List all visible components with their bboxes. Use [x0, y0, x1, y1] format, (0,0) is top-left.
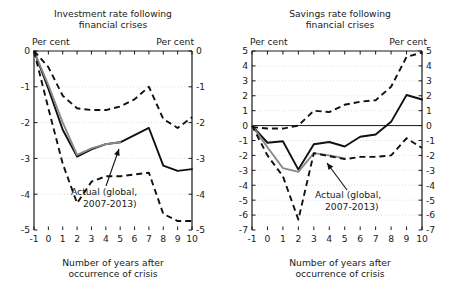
series-actual-global-2007-2013	[252, 126, 345, 172]
xaxis-label-line1: Number of years after	[62, 257, 164, 268]
ytick-label-left: -4	[21, 189, 30, 200]
ytick-label-left: 0	[242, 120, 248, 131]
xaxis-label-line1: Number of years after	[289, 257, 391, 268]
ytick-label-right: -1	[426, 135, 435, 146]
annotation-line1: Actual (global,	[71, 186, 137, 197]
ytick-label-right: -6	[426, 209, 435, 220]
xtick-label: 7	[146, 233, 152, 244]
chart-title-line2: financial crises	[306, 19, 375, 30]
chart-title-line1: Investment rate following	[54, 8, 172, 19]
ytick-label-right: -3	[196, 153, 205, 164]
annotation-arrow-head	[114, 149, 119, 156]
unit-label-right: Per cent	[156, 36, 194, 47]
xaxis-label-line2: occurrence of crisis	[295, 268, 384, 279]
xtick-label: 10	[416, 233, 428, 244]
ytick-label-left: -2	[21, 117, 30, 128]
chart-panel-investment: Investment rate following financial cris…	[0, 0, 226, 296]
xtick-label: 7	[373, 233, 379, 244]
savings-plot-area: 554433221100-1-1-2-2-3-3-4-4-5-5-6-6-7-7…	[239, 45, 435, 244]
xtick-label: 8	[388, 233, 394, 244]
xtick-label: 5	[342, 233, 348, 244]
xtick-label: 0	[265, 233, 271, 244]
xtick-label: 3	[89, 233, 95, 244]
ytick-label-left: 1	[242, 105, 248, 116]
ytick-label-right: 3	[426, 75, 432, 86]
ytick-label-left: 4	[242, 60, 248, 71]
ytick-label-left: 3	[242, 75, 248, 86]
ytick-label-right: -1	[196, 81, 205, 92]
xtick-label: 10	[186, 233, 198, 244]
unit-label-left: Per cent	[250, 36, 288, 47]
investment-plot-area: 00-1-1-2-2-3-3-4-4-5-5-1012345678910	[21, 45, 205, 244]
ytick-label-left: 0	[24, 45, 30, 56]
xtick-label: 4	[103, 233, 109, 244]
ytick-label-left: -1	[21, 81, 30, 92]
ytick-label-right: 4	[426, 60, 432, 71]
ytick-label-right: -5	[426, 195, 435, 206]
annotation-line2: 2007-2013)	[325, 201, 379, 212]
ytick-label-right: 1	[426, 105, 432, 116]
annotation-line1: Actual (global,	[315, 189, 381, 200]
ytick-label-left: 2	[242, 90, 248, 101]
ytick-label-left: -4	[239, 180, 248, 191]
ytick-label-left: -5	[239, 195, 248, 206]
ytick-label-right: -2	[426, 150, 435, 161]
ytick-label-left: -2	[239, 150, 248, 161]
xtick-label: -1	[247, 233, 256, 244]
ytick-label-right: -4	[426, 180, 435, 191]
xtick-label: 2	[74, 233, 80, 244]
unit-label-right: Per cent	[389, 36, 427, 47]
xtick-label: 9	[175, 233, 181, 244]
figure-container: Investment rate following financial cris…	[0, 0, 453, 296]
series-median	[252, 95, 422, 170]
unit-label-left: Per cent	[32, 36, 70, 47]
ytick-label-right: 2	[426, 90, 432, 101]
xtick-label: -1	[29, 233, 38, 244]
xtick-label: 5	[117, 233, 123, 244]
xtick-label: 0	[45, 233, 51, 244]
ytick-label-left: -3	[21, 153, 30, 164]
xtick-label: 2	[295, 233, 301, 244]
ytick-label-right: 0	[196, 45, 202, 56]
xtick-label: 6	[357, 233, 363, 244]
ytick-label-right: -4	[196, 189, 205, 200]
investment-chart-svg: Investment rate following financial cris…	[0, 0, 226, 296]
xtick-label: 1	[280, 233, 286, 244]
xtick-label: 8	[160, 233, 166, 244]
xtick-label: 1	[60, 233, 66, 244]
xtick-label: 4	[326, 233, 332, 244]
chart-panel-savings: Savings rate following financial crises …	[227, 0, 453, 296]
savings-chart-svg: Savings rate following financial crises …	[227, 0, 453, 296]
chart-title-line1: Savings rate following	[289, 8, 391, 19]
annotation-line2: 2007-2013)	[83, 198, 137, 209]
xtick-label: 6	[132, 233, 138, 244]
ytick-label-right: -2	[196, 117, 205, 128]
ytick-label-right: 0	[426, 120, 432, 131]
chart-title-line2: financial crises	[79, 19, 148, 30]
annotation-arrow-head	[327, 163, 333, 170]
ytick-label-left: -1	[239, 135, 248, 146]
xaxis-label-line2: occurrence of crisis	[68, 268, 157, 279]
xtick-label: 3	[311, 233, 317, 244]
xtick-label: 9	[404, 233, 410, 244]
ytick-label-right: 5	[426, 45, 432, 56]
ytick-label-left: -3	[239, 165, 248, 176]
ytick-label-left: -6	[239, 209, 248, 220]
ytick-label-right: -3	[426, 165, 435, 176]
series-upper-band	[252, 52, 422, 128]
ytick-label-left: 5	[242, 45, 248, 56]
